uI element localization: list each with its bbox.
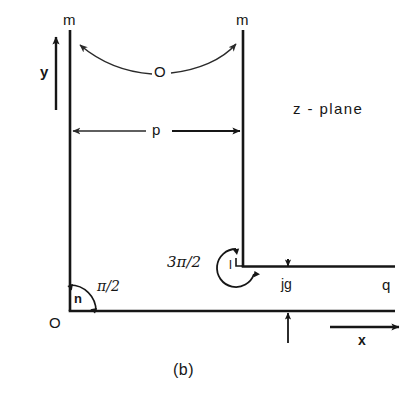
plane-label: z - plane (293, 101, 363, 116)
angle-label-3pi-over-2: 3π/2 (167, 255, 201, 270)
y-axis-label: y (40, 64, 48, 79)
vertex-label-m-right: m (236, 12, 249, 27)
curve-label-O: O (154, 64, 166, 79)
vertex-label-m-left: m (63, 12, 76, 27)
diagram-canvas (0, 0, 413, 400)
width-label-p: p (152, 122, 160, 137)
angle-marker-pi-over-2 (67, 284, 97, 314)
vertex-label-l: l (229, 258, 232, 271)
vertex-label-q: q (382, 277, 390, 292)
angle-label-pi-over-2: π/2 (97, 279, 120, 293)
figure-z-plane: m m y x O p z - plane π/2 3π/2 n l jg q … (0, 0, 413, 400)
figure-caption: (b) (173, 362, 194, 378)
slit-label-jg: jg (281, 277, 292, 291)
vertex-label-n: n (74, 292, 82, 305)
x-axis-label: x (358, 333, 366, 347)
origin-label: O (49, 315, 61, 330)
